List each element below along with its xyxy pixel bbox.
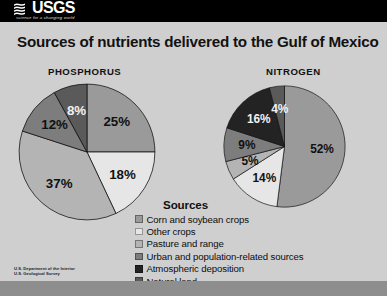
legend-item-label: Urban and population-related sources (147, 251, 304, 262)
pie-slice-label: 18% (109, 167, 136, 182)
usgs-wordmark: USGS (32, 0, 75, 15)
legend: Sources Corn and soybean cropsOther crop… (135, 198, 345, 281)
legend-swatch-icon (135, 240, 143, 248)
legend-swatch-icon (135, 215, 143, 223)
usgs-tagline: science for a changing world (16, 15, 75, 20)
legend-item: Atmospheric deposition (135, 263, 345, 275)
slide-canvas: USGS science for a changing world Source… (0, 0, 387, 281)
legend-swatch-icon (135, 277, 143, 281)
legend-item-label: Corn and soybean crops (147, 214, 249, 225)
pie-slice-label: 12% (41, 117, 68, 132)
legend-title: Sources (163, 198, 345, 211)
panel-heading-nitrogen: NITROGEN (266, 66, 321, 77)
legend-swatch-icon (135, 228, 143, 236)
legend-item-label: Natural land (147, 276, 198, 281)
legend-item-label: Other crops (147, 226, 196, 237)
legend-item: Other crops (135, 225, 345, 237)
legend-item-label: Atmospheric deposition (147, 263, 245, 274)
legend-swatch-icon (135, 265, 143, 273)
pie-slice-label: 37% (46, 176, 73, 191)
pie-svg-nitrogen: 52%14%5%9%16%4% (222, 84, 347, 209)
pie-slice-label: 16% (247, 112, 271, 126)
usgs-wave-icon (14, 2, 31, 16)
page-title: Sources of nutrients delivered to the Gu… (17, 33, 369, 50)
panel-heading-phosphorus: PHOSPHORUS (48, 66, 121, 77)
footer-agency: U.S. Department of the Interior U.S. Geo… (14, 266, 75, 277)
legend-item-label: Pasture and range (147, 238, 224, 249)
pie-slice-label: 52% (310, 142, 334, 156)
pie-slice-label: 14% (252, 171, 276, 185)
legend-item: Urban and population-related sources (135, 250, 345, 262)
usgs-header-bar: USGS science for a changing world (0, 0, 387, 22)
pie-slice-label: 8% (67, 103, 86, 118)
pie-slice-label: 4% (271, 102, 289, 116)
pie-chart-nitrogen: 52%14%5%9%16%4% (222, 84, 347, 209)
legend-item: Pasture and range (135, 238, 345, 250)
footer-line-survey: U.S. Geological Survey (14, 271, 75, 276)
legend-swatch-icon (135, 253, 143, 261)
pie-slice-label: 9% (238, 138, 256, 152)
legend-items: Corn and soybean cropsOther cropsPasture… (135, 213, 345, 281)
legend-item: Natural land (135, 275, 345, 281)
pie-slice-label: 25% (103, 114, 130, 129)
legend-item: Corn and soybean crops (135, 213, 345, 225)
